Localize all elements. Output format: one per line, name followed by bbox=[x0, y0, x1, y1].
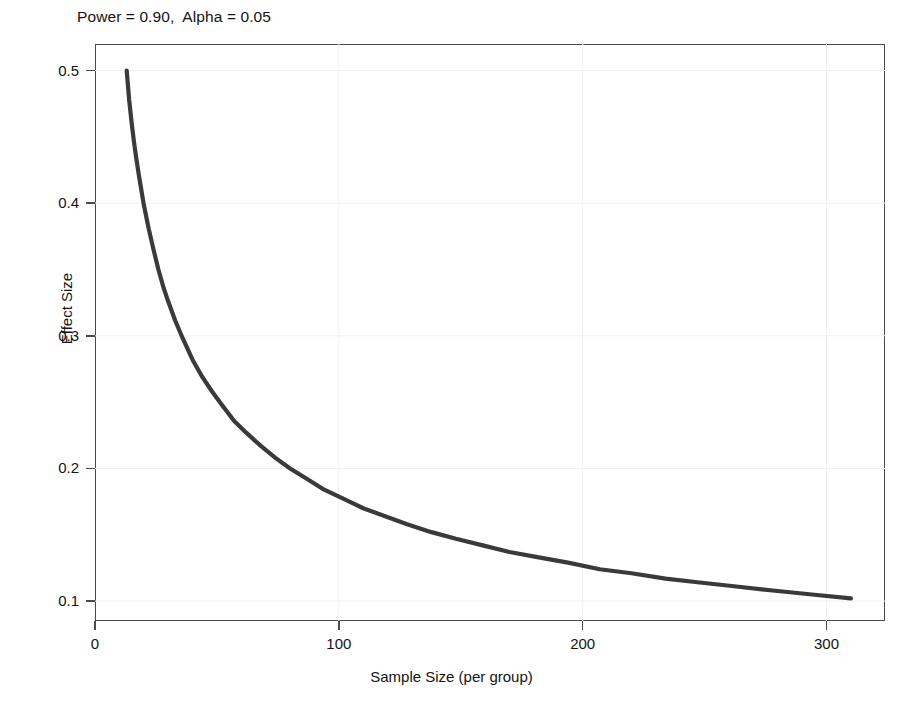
chart-title: Power = 0.90, Alpha = 0.05 bbox=[77, 8, 271, 26]
x-tick-mark-2 bbox=[582, 621, 583, 630]
power-analysis-chart: Power = 0.90, Alpha = 0.05 0.10.20.30.40… bbox=[0, 0, 903, 714]
y-tick-mark-0 bbox=[86, 600, 95, 601]
y-tick-label-1: 0.2 bbox=[27, 460, 79, 475]
y-tick-mark-3 bbox=[86, 202, 95, 203]
y-tick-mark-4 bbox=[86, 70, 95, 71]
x-tick-mark-0 bbox=[94, 621, 95, 630]
y-tick-label-0: 0.1 bbox=[27, 593, 79, 608]
y-tick-mark-2 bbox=[86, 335, 95, 336]
x-tick-label-1: 100 bbox=[309, 636, 369, 651]
x-tick-label-0: 0 bbox=[65, 636, 125, 651]
y-tick-mark-1 bbox=[86, 468, 95, 469]
x-tick-mark-1 bbox=[338, 621, 339, 630]
x-tick-label-2: 200 bbox=[553, 636, 613, 651]
plot-area bbox=[95, 44, 885, 621]
y-tick-label-3: 0.4 bbox=[27, 195, 79, 210]
x-tick-label-3: 300 bbox=[796, 636, 856, 651]
x-axis-title: Sample Size (per group) bbox=[0, 668, 903, 685]
y-tick-label-4: 0.5 bbox=[27, 63, 79, 78]
y-axis-title: Effect Size bbox=[58, 239, 75, 379]
x-tick-mark-3 bbox=[826, 621, 827, 630]
